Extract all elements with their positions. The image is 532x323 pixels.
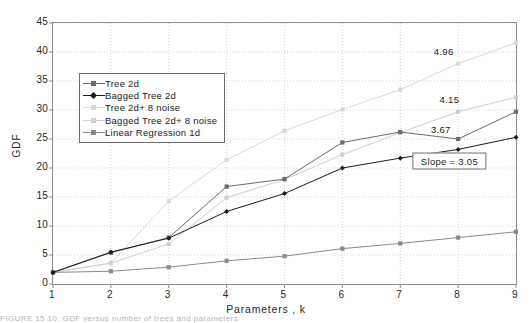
x-tick-4: 4 <box>223 290 229 300</box>
legend-marker-icon <box>83 78 105 89</box>
figure-caption-clipped: FIGURE 15.10. GDF versus number of trees… <box>0 314 532 323</box>
x-tick-2: 2 <box>107 290 113 300</box>
legend-item-label: Tree 2d <box>105 78 139 89</box>
x-tick-9: 9 <box>512 290 518 300</box>
legend-item-label: Bagged Tree 2d+ 8 noise <box>105 115 217 126</box>
plot-area: 4.964.153.67Slope = 3.05 <box>52 22 517 285</box>
x-axis-tick-labels: 123456789 <box>52 290 517 304</box>
legend-item-3: Bagged Tree 2d+ 8 noise <box>83 114 217 126</box>
y-tick-5: 5 <box>42 249 48 259</box>
x-tick-7: 7 <box>396 290 402 300</box>
chart-legend: Tree 2dBagged Tree 2dTree 2d+ 8 noiseBag… <box>79 73 225 143</box>
legend-item-label: Bagged Tree 2d <box>105 90 176 101</box>
legend-item-1: Bagged Tree 2d <box>83 89 217 101</box>
y-axis-title: GDF <box>11 116 22 176</box>
legend-marker-icon <box>83 102 105 113</box>
figure-caption-text: FIGURE 15.10. GDF versus number of trees… <box>0 314 532 323</box>
y-tick-35: 35 <box>36 75 48 85</box>
figure-gdf-chart: 051015202530354045 GDF 4.964.153.67Slope… <box>0 0 532 323</box>
y-tick-15: 15 <box>36 191 48 201</box>
legend-item-4: Linear Regression 1d <box>83 127 217 139</box>
y-tick-25: 25 <box>36 133 48 143</box>
x-tick-1: 1 <box>49 290 55 300</box>
x-tick-6: 6 <box>338 290 344 300</box>
slope-box: Slope = 3.05 <box>413 153 486 170</box>
y-tick-40: 40 <box>36 46 48 56</box>
x-tick-3: 3 <box>165 290 171 300</box>
legend-item-0: Tree 2d <box>83 77 217 89</box>
x-tick-5: 5 <box>281 290 287 300</box>
y-tick-10: 10 <box>36 220 48 230</box>
label-415: 4.15 <box>440 93 460 104</box>
y-tick-0: 0 <box>42 278 48 288</box>
legend-item-label: Tree 2d+ 8 noise <box>105 102 180 113</box>
legend-item-2: Tree 2d+ 8 noise <box>83 102 217 114</box>
y-tick-20: 20 <box>36 162 48 172</box>
annotation-layer: 4.964.153.67Slope = 3.05 <box>53 23 516 284</box>
legend-item-label: Linear Regression 1d <box>105 127 200 138</box>
legend-marker-icon <box>83 90 105 101</box>
legend-marker-icon <box>83 127 105 138</box>
x-tick-8: 8 <box>454 290 460 300</box>
y-tick-45: 45 <box>36 17 48 27</box>
y-tick-30: 30 <box>36 104 48 114</box>
y-axis-tick-labels: 051015202530354045 <box>22 22 48 285</box>
legend-marker-icon <box>83 115 105 126</box>
label-496: 4.96 <box>434 45 454 56</box>
label-367: 3.67 <box>431 123 451 134</box>
